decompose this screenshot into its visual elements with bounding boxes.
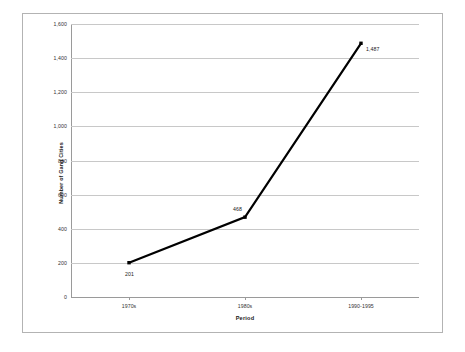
- data-point-marker: [243, 215, 246, 218]
- data-point-label: 1,487: [366, 46, 379, 52]
- x-axis-title: Period: [71, 315, 419, 321]
- x-axis-tick-mark: [361, 297, 362, 300]
- y-axis-tick-label: 1,600: [54, 21, 67, 27]
- y-axis-tick-label: 600: [58, 192, 67, 198]
- y-axis-tick-label: 0: [64, 294, 67, 300]
- y-axis-tick-label: 800: [58, 158, 67, 164]
- x-axis-tick-label: 1970s: [122, 303, 137, 309]
- y-axis-tick-label: 200: [58, 260, 67, 266]
- x-axis-tick-mark: [245, 297, 246, 300]
- y-axis-tick-label: 400: [58, 226, 67, 232]
- y-axis-tick-label: 1,200: [54, 89, 67, 95]
- data-point-marker: [127, 261, 130, 264]
- x-axis-tick-mark: [129, 297, 130, 300]
- plot-area: 1,6001,4001,2001,0008006004002000 1970s1…: [71, 24, 419, 297]
- data-point-label: 201: [125, 271, 134, 277]
- chart-frame: Number of Gang Cities 1,6001,4001,2001,0…: [22, 13, 443, 333]
- series-line: [129, 43, 361, 262]
- y-axis-tick-label: 1,400: [54, 55, 67, 61]
- x-axis-tick-label: 1980s: [238, 303, 253, 309]
- x-axis-tick-label: 1990-1995: [348, 303, 374, 309]
- line-series: [71, 24, 419, 297]
- y-axis-tick-label: 1,000: [54, 123, 67, 129]
- data-point-label: 468: [233, 206, 242, 212]
- data-point-marker: [359, 42, 362, 45]
